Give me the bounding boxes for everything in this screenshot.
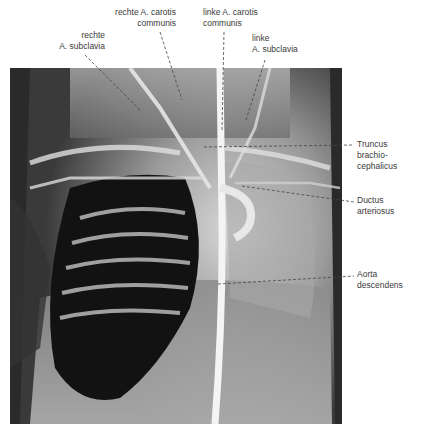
radiograph-graphic bbox=[10, 68, 342, 424]
label-linke-a-carotis-communis: linke A. carotis communis bbox=[203, 7, 258, 29]
label-aorta-descendens: Aorta descendens bbox=[357, 269, 403, 291]
label-rechte-a-carotis-communis: rechte A. carotis communis bbox=[100, 7, 176, 29]
label-rechte-a-subclavia: rechte A. subclavia bbox=[40, 30, 105, 52]
label-truncus-brachiocephalicus: Truncus brachio- cephalicus bbox=[357, 139, 397, 172]
label-linke-a-subclavia: linke A. subclavia bbox=[252, 33, 298, 55]
xray-image bbox=[10, 68, 342, 424]
label-ductus-arteriosus: Ductus arteriosus bbox=[357, 195, 394, 217]
